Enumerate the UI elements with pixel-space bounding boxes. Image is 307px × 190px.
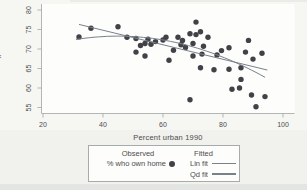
lin-fit-line-icon	[212, 163, 236, 164]
legend-label-lin-fit: Lin fit	[180, 159, 208, 168]
legend-label-qd-fit: Qd fit	[180, 170, 208, 179]
y-tick-label: 55	[25, 104, 32, 112]
scatter-point	[237, 85, 242, 90]
legend-header-observed: Observed	[92, 149, 184, 158]
scatter-point	[219, 48, 224, 53]
legend-header-fitted: Fitted	[187, 149, 220, 158]
dot-icon	[169, 161, 175, 167]
scatter-figure: 20406080100556065707580 x Percent urban …	[0, 0, 307, 190]
scatter-point	[211, 67, 216, 72]
y-tick-label: 70	[25, 45, 32, 53]
scatter-point	[201, 44, 206, 49]
scatter-point	[253, 104, 258, 109]
x-tick-label: 60	[159, 121, 167, 128]
legend-row-2: Qd fit	[92, 169, 236, 179]
scatter-point	[250, 56, 255, 61]
scatter-point	[226, 67, 231, 72]
scatter-point	[259, 51, 264, 56]
scatter-point	[243, 49, 248, 54]
scatter-point	[249, 92, 254, 97]
scatter-point	[163, 35, 168, 40]
scatter-point	[190, 53, 195, 58]
scatter-point	[115, 24, 120, 29]
scatter-point	[193, 19, 198, 24]
legend-row-1: % who own home Lin fit	[92, 159, 236, 169]
legend-box: Observed Fitted % who own home Lin fit Q…	[88, 145, 240, 182]
scatter-point	[190, 41, 195, 46]
legend-label-own-home: % who own home	[92, 159, 166, 168]
scatter-marker-icon	[166, 161, 177, 167]
x-tick-label: 40	[99, 121, 107, 128]
scatter-point	[226, 45, 231, 50]
y-axis-title-cropped: x	[0, 55, 2, 59]
scatter-point	[187, 97, 192, 102]
scatter-point	[193, 32, 198, 37]
scatter-point	[205, 35, 210, 40]
scatter-point	[142, 53, 147, 58]
scatter-point	[229, 87, 234, 92]
scatter-point	[166, 58, 171, 63]
scatter-point	[246, 38, 251, 43]
scatter-point	[175, 35, 180, 40]
scatter-point	[171, 48, 176, 53]
y-tick-label: 60	[25, 84, 32, 92]
y-tick-label: 65	[25, 65, 32, 73]
scatter-point	[187, 31, 192, 36]
x-tick-label: 20	[39, 121, 47, 128]
legend-header-row: Observed Fitted	[92, 148, 236, 158]
qd-fit-line-icon	[212, 173, 236, 174]
scatter-point	[198, 65, 203, 70]
scatter-point	[262, 94, 267, 99]
scatter-point	[238, 77, 243, 82]
scatter-point	[133, 49, 138, 54]
y-tick-label: 80	[25, 6, 32, 14]
scatter-point	[198, 29, 203, 34]
x-tick-label: 80	[219, 121, 227, 128]
y-tick-label: 75	[25, 26, 32, 34]
x-axis-title: Percent urban 1990	[41, 133, 295, 142]
x-tick-label: 100	[277, 121, 289, 128]
